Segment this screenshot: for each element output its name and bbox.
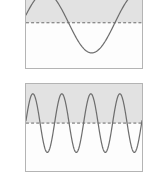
waveform-figure <box>0 0 150 178</box>
high-frequency-plot <box>26 84 142 171</box>
low-frequency-plot <box>26 0 142 68</box>
low-frequency-wave-panel <box>25 0 143 69</box>
unshaded-region <box>26 23 142 68</box>
high-frequency-wave-panel <box>25 83 143 172</box>
unshaded-region <box>26 123 142 171</box>
